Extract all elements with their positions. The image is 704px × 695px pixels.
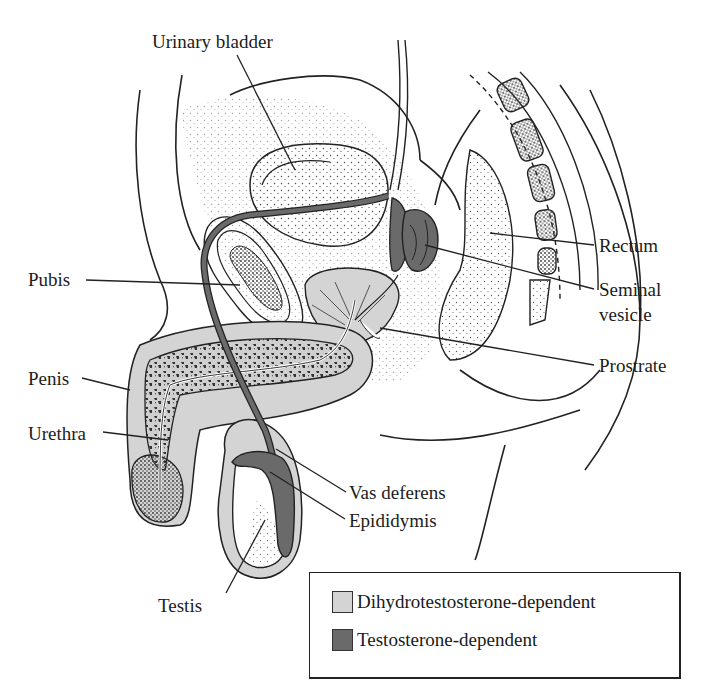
legend-item-dht: Dihydrotestosterone-dependent — [332, 591, 595, 613]
label-seminal-vesicle-line1: Seminal — [599, 279, 661, 300]
label-seminal-vesicle-line2: vesicle — [599, 304, 652, 325]
label-urethra: Urethra — [28, 423, 86, 444]
legend-label: Testosterone-dependent — [357, 629, 537, 651]
label-epididymis: Epididymis — [349, 510, 437, 531]
testosterone-swatch-icon — [332, 629, 353, 651]
seminal-vesicle — [402, 210, 438, 271]
label-prostate: Prostrate — [599, 355, 667, 376]
dht-swatch-icon — [332, 591, 353, 613]
label-urinary-bladder: Urinary bladder — [152, 31, 273, 52]
rectum — [439, 150, 513, 360]
legend-item-testosterone: Testosterone-dependent — [332, 629, 537, 651]
label-testis: Testis — [158, 595, 202, 616]
label-vas-deferens: Vas deferens — [349, 482, 446, 503]
legend-label: Dihydrotestosterone-dependent — [357, 591, 595, 613]
label-pubis: Pubis — [28, 269, 70, 290]
label-rectum: Rectum — [599, 235, 658, 256]
label-penis: Penis — [28, 368, 69, 389]
legend: Dihydrotestosterone-dependent Testostero… — [309, 572, 681, 679]
